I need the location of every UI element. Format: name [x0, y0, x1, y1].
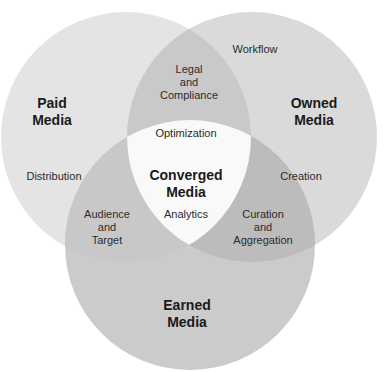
curation-line3: Aggregation: [233, 234, 292, 247]
paid-title-line2: Media: [32, 112, 72, 129]
owned-media-title: Owned Media: [291, 95, 338, 129]
converged-title-line1: Converged: [149, 167, 222, 184]
optimization-label: Optimization: [155, 127, 216, 140]
audience-line3: Target: [84, 234, 130, 247]
curation-aggregation-label: Curation and Aggregation: [233, 208, 292, 247]
converged-title-line2: Media: [149, 184, 222, 201]
owned-title-line2: Media: [291, 112, 338, 129]
audience-target-label: Audience and Target: [84, 208, 130, 247]
converged-media-title: Converged Media: [149, 167, 222, 201]
legal-line1: Legal: [160, 63, 218, 76]
earned-title-line2: Media: [163, 314, 210, 331]
earned-title-line1: Earned: [163, 297, 210, 314]
owned-title-line1: Owned: [291, 95, 338, 112]
analytics-label: Analytics: [164, 208, 208, 221]
workflow-label: Workflow: [232, 43, 277, 56]
paid-title-line1: Paid: [32, 95, 72, 112]
legal-line3: Compliance: [160, 89, 218, 102]
legal-compliance-label: Legal and Compliance: [160, 63, 218, 102]
curation-line2: and: [233, 221, 292, 234]
creation-label: Creation: [280, 170, 322, 183]
audience-line1: Audience: [84, 208, 130, 221]
legal-line2: and: [160, 76, 218, 89]
earned-media-title: Earned Media: [163, 297, 210, 331]
distribution-label: Distribution: [26, 170, 81, 183]
curation-line1: Curation: [233, 208, 292, 221]
audience-line2: and: [84, 221, 130, 234]
paid-media-title: Paid Media: [32, 95, 72, 129]
